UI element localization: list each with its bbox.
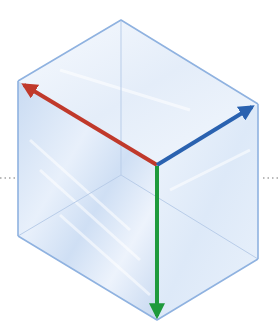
cube-diagram xyxy=(0,0,278,335)
